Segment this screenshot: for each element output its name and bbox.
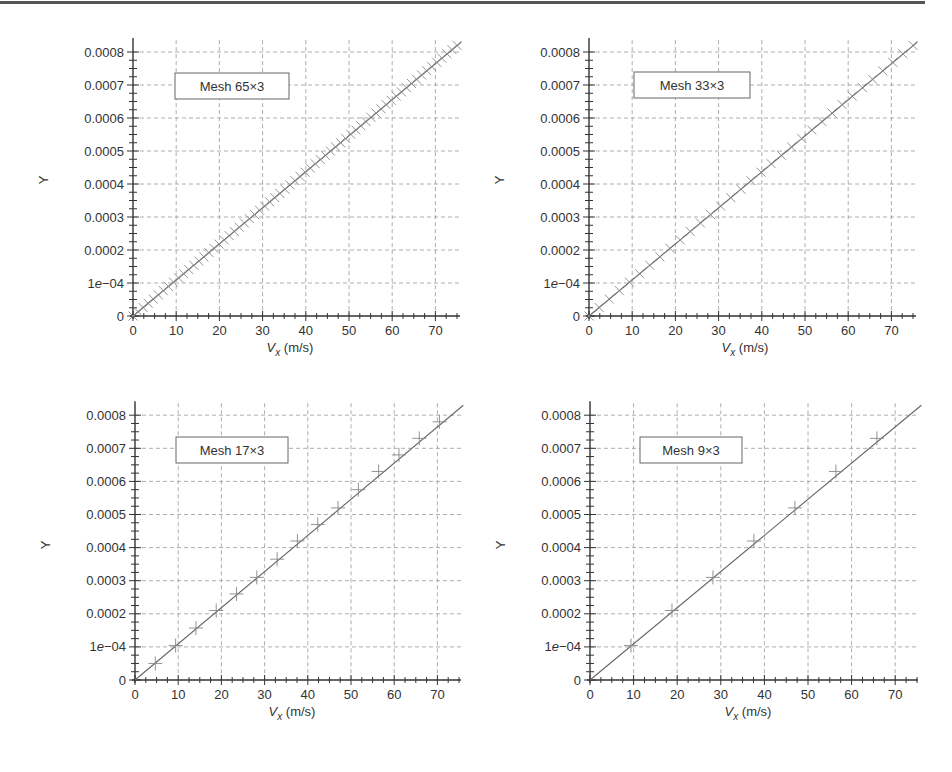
panel-3: 01020304050607001e−040.00020.00030.00040… [38,401,463,722]
panel-4: 01020304050607001e−040.00020.00030.00040… [493,401,921,722]
x-tick-label: 10 [626,687,640,702]
y-tick-label: 0.0006 [541,474,581,489]
y-tick-label: 0.0005 [86,507,126,522]
y-tick-label: 0 [574,673,581,688]
x-tick-label: 60 [844,687,858,702]
mesh-label-box: Mesh 17×3 [176,437,288,463]
y-tick-label: 0.0004 [86,540,126,555]
y-tick-label: 0.0005 [541,507,581,522]
y-tick-label: 0.0004 [540,177,580,192]
x-axis-title: Vx (m/s) [722,340,769,358]
y-tick-label: 0.0005 [84,144,124,159]
chart-figure: 01020304050607001e−040.00020.00030.00040… [0,0,952,772]
x-tick-label: 50 [344,687,358,702]
y-tick-label: 0.0002 [541,606,581,621]
y-tick-label: 0.0006 [84,111,124,126]
x-tick-label: 20 [214,687,228,702]
x-tick-label: 10 [625,323,639,338]
x-tick-label: 10 [171,687,185,702]
mesh-label: Mesh 9×3 [662,443,719,458]
y-axis-title: Y [493,540,508,549]
y-tick-label: 0.0004 [541,540,581,555]
y-tick-label: 0.0003 [86,573,126,588]
x-tick-label: 30 [714,687,728,702]
y-tick-label: 0.0003 [541,573,581,588]
y-tick-label: 0.0007 [541,441,581,456]
y-tick-label: 0.0002 [86,606,126,621]
x-tick-label: 50 [798,323,812,338]
y-axis-title: Y [38,540,53,549]
mesh-label: Mesh 65×3 [200,79,265,94]
x-tick-label: 40 [757,687,771,702]
x-tick-label: 40 [301,687,315,702]
x-tick-label: 0 [129,323,136,338]
y-tick-label: 0 [117,309,124,324]
x-tick-label: 70 [884,323,898,338]
mesh-label-box: Mesh 65×3 [175,73,289,99]
y-tick-label: 0.0007 [540,78,580,93]
x-tick-label: 50 [342,323,356,338]
mesh-label-box: Mesh 33×3 [634,72,750,98]
y-tick-label: 0.0003 [84,210,124,225]
panel-1: 01020304050607001e−040.00020.00030.00040… [36,38,462,358]
x-tick-label: 20 [668,323,682,338]
mesh-label-box: Mesh 9×3 [640,437,742,463]
x-tick-label: 30 [255,323,269,338]
y-tick-label: 0.0002 [540,243,580,258]
y-tick-label: 1e−04 [87,276,124,291]
mesh-label: Mesh 33×3 [660,78,725,93]
x-tick-label: 60 [841,323,855,338]
mesh-label: Mesh 17×3 [200,443,265,458]
y-tick-label: 0 [119,673,126,688]
x-tick-label: 0 [131,687,138,702]
x-tick-label: 10 [169,323,183,338]
y-tick-label: 0 [573,309,580,324]
y-tick-label: 0.0008 [86,408,126,423]
y-tick-label: 0.0007 [84,78,124,93]
x-tick-label: 20 [212,323,226,338]
y-tick-label: 0.0007 [86,441,126,456]
y-tick-label: 0.0005 [540,144,580,159]
x-tick-label: 50 [801,687,815,702]
x-tick-label: 60 [385,323,399,338]
x-tick-label: 40 [755,323,769,338]
y-tick-label: 0.0008 [84,45,124,60]
x-tick-label: 0 [586,687,593,702]
y-axis-title: Y [36,175,51,184]
x-axis-title: Vx (m/s) [267,340,314,358]
y-tick-label: 0.0006 [540,111,580,126]
x-tick-label: 30 [257,687,271,702]
x-tick-label: 0 [585,323,592,338]
x-tick-label: 30 [711,323,725,338]
panel-2: 01020304050607001e−040.00020.00030.00040… [492,38,918,358]
y-tick-label: 0.0008 [540,45,580,60]
y-tick-label: 0.0008 [541,408,581,423]
x-tick-label: 60 [387,687,401,702]
x-axis-title: Vx (m/s) [269,704,316,722]
y-tick-label: 0.0003 [540,210,580,225]
x-tick-label: 70 [888,687,902,702]
y-tick-label: 1e−04 [543,276,580,291]
y-tick-label: 0.0004 [84,177,124,192]
x-axis-title: Vx (m/s) [725,704,772,722]
x-tick-label: 70 [428,323,442,338]
y-axis-title: Y [492,175,507,184]
y-tick-label: 1e−04 [89,639,126,654]
y-tick-label: 0.0002 [84,243,124,258]
x-tick-label: 70 [430,687,444,702]
x-tick-label: 20 [670,687,684,702]
x-tick-label: 40 [299,323,313,338]
y-tick-label: 1e−04 [544,639,581,654]
y-tick-label: 0.0006 [86,474,126,489]
